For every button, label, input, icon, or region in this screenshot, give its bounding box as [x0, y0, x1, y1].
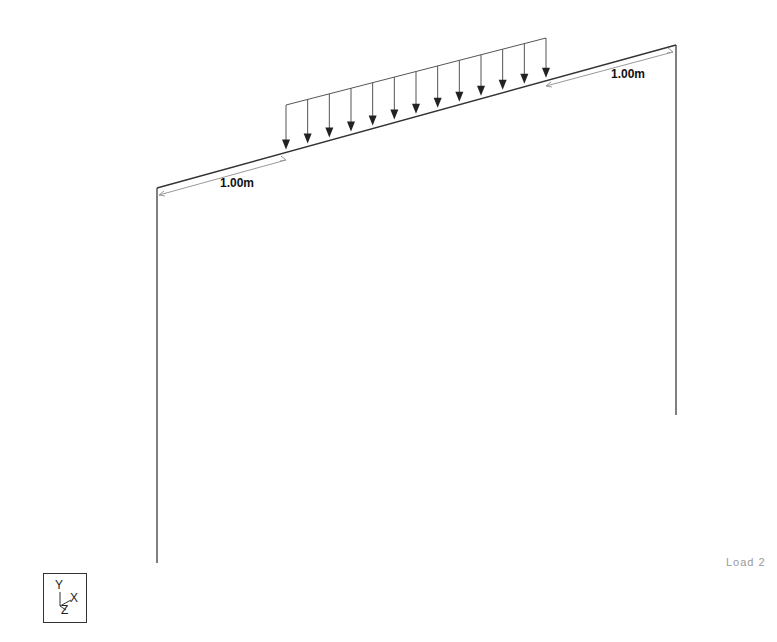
- model-viewport[interactable]: [0, 0, 777, 642]
- axis-x-label: X: [70, 591, 78, 605]
- load-arrow: [304, 99, 312, 143]
- load-arrow: [369, 83, 377, 126]
- load-arrow: [282, 105, 290, 149]
- load-arrow: [347, 88, 355, 131]
- distributed-load[interactable]: [282, 38, 550, 149]
- load-arrow: [412, 72, 420, 114]
- left-dimension-label: 1.00m: [220, 176, 254, 190]
- beam[interactable]: [157, 45, 676, 188]
- right-dimension-label: 1.00m: [611, 67, 645, 81]
- load-arrow: [542, 38, 550, 78]
- load-arrow: [434, 66, 442, 108]
- axis-y-label: Y: [55, 578, 63, 592]
- load-arrow: [520, 44, 528, 84]
- load-case-label: Load 2: [726, 556, 766, 568]
- right-dimension-line: [546, 48, 673, 87]
- load-arrow: [325, 94, 333, 138]
- load-arrow: [390, 77, 398, 120]
- load-arrow: [477, 55, 485, 96]
- load-arrow: [499, 49, 507, 90]
- axis-z-label: Z: [61, 603, 68, 617]
- load-arrow: [455, 60, 463, 101]
- axis-triad: Y X Z: [43, 573, 87, 623]
